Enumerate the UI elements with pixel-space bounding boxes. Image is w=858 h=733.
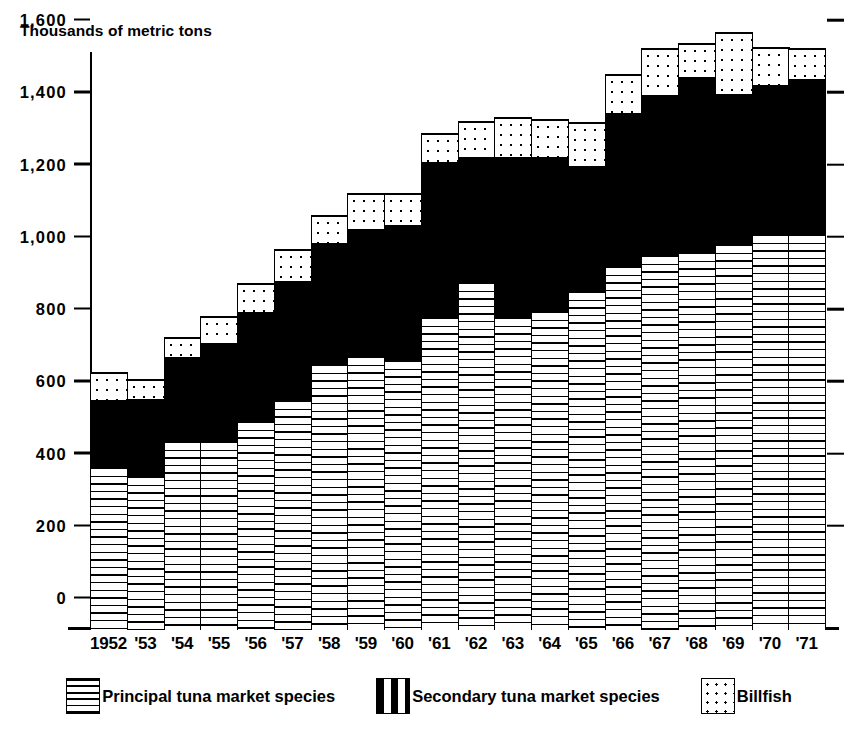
bar-segment-principal[interactable] — [385, 359, 421, 630]
bar-segment-principal[interactable] — [238, 420, 274, 630]
bar-61[interactable] — [421, 133, 459, 630]
bar-58[interactable] — [311, 215, 349, 630]
legend-item-secondary[interactable]: Secondary tuna market species — [376, 678, 660, 714]
bar-segment-billfish[interactable] — [679, 43, 715, 77]
x-axis-labels: 1952'53'54'55'56'57'58'59'60'61'62'63'64… — [90, 634, 825, 654]
bar-segment-secondary[interactable] — [459, 157, 495, 282]
bar-1952[interactable] — [90, 372, 128, 630]
bar-67[interactable] — [641, 48, 679, 630]
bar-segment-billfish[interactable] — [128, 379, 164, 399]
bar-segment-secondary[interactable] — [495, 157, 531, 316]
bar-59[interactable] — [347, 193, 385, 630]
bar-segment-principal[interactable] — [753, 233, 789, 630]
bar-segment-billfish[interactable] — [422, 133, 458, 162]
bar-66[interactable] — [605, 74, 643, 630]
bar-segment-principal[interactable] — [91, 466, 127, 630]
legend-label: Principal tuna market species — [102, 687, 335, 706]
bar-71[interactable] — [788, 48, 826, 630]
bar-segment-billfish[interactable] — [642, 48, 678, 95]
bar-segment-principal[interactable] — [606, 265, 642, 630]
bar-56[interactable] — [237, 283, 275, 630]
bar-segment-billfish[interactable] — [165, 337, 201, 357]
y-tick-mark-right — [827, 163, 844, 166]
bar-segment-principal[interactable] — [679, 251, 715, 630]
bar-segment-billfish[interactable] — [789, 48, 825, 79]
bar-segment-secondary[interactable] — [128, 399, 164, 475]
bar-65[interactable] — [568, 122, 606, 630]
y-tick-mark-right — [827, 235, 844, 238]
bar-segment-billfish[interactable] — [495, 117, 531, 157]
bar-segment-billfish[interactable] — [716, 32, 752, 93]
legend-item-billfish[interactable]: Billfish — [701, 678, 792, 714]
bar-54[interactable] — [164, 337, 202, 630]
bar-segment-billfish[interactable] — [91, 372, 127, 399]
chart-legend: Principal tuna market speciesSecondary t… — [0, 678, 858, 714]
bar-segment-secondary[interactable] — [606, 113, 642, 265]
bar-segment-principal[interactable] — [495, 316, 531, 630]
bar-70[interactable] — [752, 47, 790, 630]
bar-segment-billfish[interactable] — [532, 119, 568, 157]
bar-segment-principal[interactable] — [422, 316, 458, 630]
plot-area: 02004006008001,0001,2001,4001,600 — [90, 20, 825, 630]
y-tick-value: 1,200 — [20, 155, 67, 173]
bar-segment-principal[interactable] — [348, 355, 384, 630]
bar-segment-secondary[interactable] — [91, 400, 127, 466]
chart-page: Thousands of metric tons 02004006008001,… — [0, 0, 858, 733]
bar-segment-secondary[interactable] — [569, 166, 605, 291]
bar-segment-principal[interactable] — [201, 440, 237, 630]
bar-segment-billfish[interactable] — [348, 193, 384, 229]
bar-segment-secondary[interactable] — [238, 312, 274, 420]
bar-segment-secondary[interactable] — [422, 162, 458, 316]
y-tick-mark — [74, 235, 90, 238]
bar-segment-billfish[interactable] — [753, 47, 789, 85]
bar-segment-secondary[interactable] — [201, 343, 237, 441]
bar-segment-principal[interactable] — [716, 243, 752, 630]
bar-segment-secondary[interactable] — [679, 77, 715, 250]
bar-segment-billfish[interactable] — [275, 249, 311, 282]
bar-60[interactable] — [384, 193, 422, 630]
bar-segment-principal[interactable] — [128, 475, 164, 630]
bar-segment-billfish[interactable] — [606, 74, 642, 114]
bar-segment-secondary[interactable] — [716, 94, 752, 244]
bar-segment-principal[interactable] — [312, 363, 348, 630]
bar-segment-principal[interactable] — [569, 290, 605, 630]
bar-segment-secondary[interactable] — [532, 157, 568, 311]
bar-segment-secondary[interactable] — [312, 243, 348, 362]
bar-segment-secondary[interactable] — [165, 357, 201, 440]
bar-57[interactable] — [274, 249, 312, 630]
x-tick-label: '60 — [384, 634, 421, 654]
bar-segment-billfish[interactable] — [569, 122, 605, 165]
bar-segment-secondary[interactable] — [753, 85, 789, 233]
bar-segment-billfish[interactable] — [201, 316, 237, 343]
y-tick-mark — [74, 91, 90, 94]
x-tick-label: '59 — [347, 634, 384, 654]
bar-segment-secondary[interactable] — [642, 95, 678, 254]
bar-segment-billfish[interactable] — [312, 215, 348, 244]
bar-segment-billfish[interactable] — [459, 121, 495, 157]
y-tick-value: 0 — [57, 589, 67, 607]
legend-item-principal[interactable]: Principal tuna market species — [66, 678, 335, 714]
bar-segment-principal[interactable] — [642, 254, 678, 630]
bar-segment-principal[interactable] — [459, 281, 495, 630]
bar-segment-secondary[interactable] — [385, 225, 421, 359]
bar-segment-principal[interactable] — [532, 310, 568, 630]
bar-segment-principal[interactable] — [165, 440, 201, 630]
bar-group — [90, 52, 825, 630]
bar-segment-principal[interactable] — [275, 399, 311, 630]
bar-69[interactable] — [715, 32, 753, 630]
bar-segment-secondary[interactable] — [275, 281, 311, 398]
bar-63[interactable] — [494, 117, 532, 630]
bar-68[interactable] — [678, 43, 716, 630]
bar-segment-billfish[interactable] — [238, 283, 274, 312]
bar-55[interactable] — [200, 316, 238, 630]
y-tick-mark — [74, 596, 90, 599]
bar-64[interactable] — [531, 119, 569, 630]
legend-label: Secondary tuna market species — [412, 687, 660, 706]
bar-62[interactable] — [458, 121, 496, 630]
bar-53[interactable] — [127, 379, 165, 630]
bar-segment-billfish[interactable] — [385, 193, 421, 226]
x-tick-label: '67 — [641, 634, 678, 654]
bar-segment-secondary[interactable] — [348, 229, 384, 355]
bar-segment-secondary[interactable] — [789, 79, 825, 233]
bar-segment-principal[interactable] — [789, 233, 825, 630]
